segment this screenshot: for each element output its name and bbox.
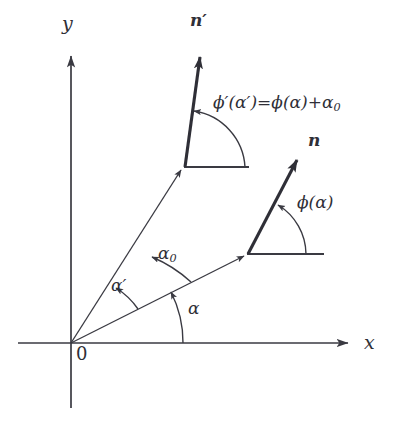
alpha0-angle-label: α0 (158, 245, 177, 264)
bold-vectors-group (185, 57, 297, 254)
phi-arc (278, 205, 306, 254)
origin-label: 0 (76, 345, 87, 363)
alpha-prime-angle-label: α′ (111, 277, 126, 294)
alpha0-base: α (158, 243, 169, 263)
vector-rotation-diagram: y x 0 n′ n ϕ′(α′)=ϕ(α)+α0 ϕ(α) α0 α′ α (0, 0, 399, 423)
alpha-ray (71, 256, 244, 343)
diagram-canvas (0, 0, 399, 423)
alpha-arc (171, 292, 183, 343)
n-prime-vector-label: n′ (190, 12, 207, 29)
alpha-angle-label: α (188, 300, 199, 317)
y-axis-label: y (62, 14, 73, 33)
n-vector (248, 160, 297, 254)
phi-prime-rhs: =ϕ(α)+α (257, 92, 333, 112)
alpha0-subscript: 0 (169, 252, 176, 265)
x-axis-label: x (364, 333, 375, 352)
phi-prime-equation-label: ϕ′(α′)=ϕ(α)+α0 (213, 94, 341, 113)
phi-angle-label: ϕ(α) (297, 194, 333, 211)
phi-prime-subscript: 0 (333, 101, 340, 114)
phi-prime-arc (194, 111, 245, 167)
phi-prime-lhs: ϕ′(α′) (213, 92, 257, 112)
n-vector-label: n (308, 132, 320, 149)
